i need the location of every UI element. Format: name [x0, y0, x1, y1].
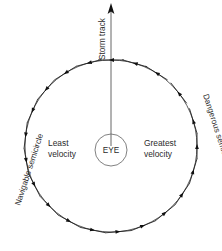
wind-arrow-bottom-left-1: [58, 215, 81, 228]
wind-arrow-head: [155, 72, 160, 76]
wind-arrow-head: [191, 169, 195, 174]
wind-arrow-right-upper: [195, 133, 199, 159]
storm-track-label: Storm track: [98, 17, 107, 60]
wind-arrow-head: [140, 225, 145, 229]
wind-arrow-top-right-2: [171, 83, 187, 103]
cyclone-diagram: EYE Storm track Navigable semicircle Dan…: [0, 0, 222, 251]
wind-arrow-head: [192, 119, 196, 124]
wind-arrow-head: [109, 58, 114, 62]
wind-arrow-upper-right: [189, 108, 197, 133]
wind-arrow-head: [32, 108, 36, 113]
wind-arrow-bottom: [80, 227, 105, 232]
wind-arrow-left-upper: [27, 99, 38, 123]
greatest-velocity-label-line2: velocity: [144, 149, 173, 159]
wind-arrow-bottom-right-2: [131, 221, 155, 231]
wind-arrow-head: [31, 182, 35, 187]
dangerous-semicircle-label: Dangerous semicircle: [201, 93, 222, 171]
wind-arrow-bottom-left-2: [40, 196, 58, 215]
wind-arrow-lower-right: [155, 205, 175, 221]
wind-arrow-head: [87, 60, 92, 64]
wind-arrow-right-lower: [175, 183, 190, 205]
least-velocity-label-line1: Least: [48, 138, 69, 148]
wind-arrow-top-right-1: [146, 66, 168, 80]
wind-arrow-upper-left: [38, 80, 55, 100]
greatest-velocity-label-line1: Greatest: [144, 138, 177, 148]
eye-label: EYE: [103, 146, 120, 155]
wind-arrow-head: [64, 70, 69, 74]
wind-arrow-head: [133, 62, 138, 66]
wind-arrow-head: [195, 144, 199, 149]
wind-arrow-top-left-2: [54, 66, 76, 80]
least-velocity-label-line2: velocity: [48, 149, 77, 159]
wind-arrow-head: [66, 218, 71, 222]
wind-arrow-head: [179, 192, 183, 197]
storm-track-group: [108, 3, 115, 146]
cyclone-svg-canvas: EYE Storm track Navigable semicircle Dan…: [0, 0, 222, 251]
wind-arrow-head: [24, 132, 28, 137]
wind-arrow-top-right-0: [122, 60, 147, 67]
wind-arrow-right: [189, 159, 197, 184]
